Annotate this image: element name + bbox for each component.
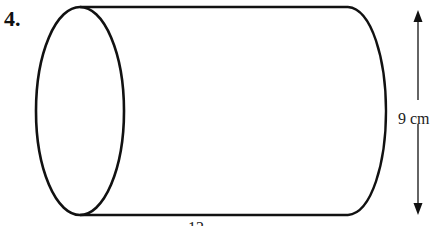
cylinder-left-face	[36, 7, 124, 215]
length-label-partial: 12	[188, 219, 204, 226]
arrow-down-icon	[414, 203, 423, 215]
arrow-up-icon	[414, 10, 423, 22]
cylinder-right-face	[348, 7, 386, 215]
height-label: 9 cm	[398, 110, 430, 127]
cylinder-diagram: 9 cm 12	[0, 0, 444, 226]
